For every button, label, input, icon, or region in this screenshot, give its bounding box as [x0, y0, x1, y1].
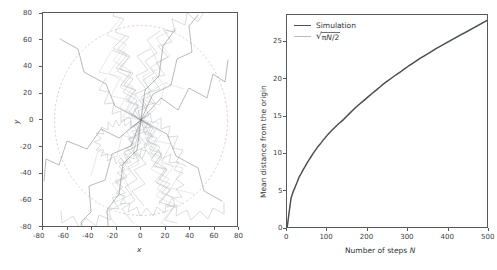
- right-y-ticklabel: 5: [278, 187, 282, 195]
- walk-outliers: [44, 15, 228, 227]
- left-x-ticklabel: 80: [234, 232, 243, 240]
- random-walk-canvas: [43, 13, 238, 227]
- legend: Simulation √πN/2: [290, 17, 361, 45]
- left-x-ticklabel: 60: [210, 232, 219, 240]
- legend-label-simulation: Simulation: [316, 20, 356, 31]
- right-x-tick: [448, 228, 449, 231]
- left-y-ticklabel: 40: [23, 62, 32, 70]
- right-x-tick: [286, 228, 287, 231]
- simulation-curve: [287, 19, 488, 228]
- right-x-tick: [326, 228, 327, 231]
- right-panel-xlabel: Number of steps N: [345, 246, 415, 255]
- left-y-ticklabel: 60: [23, 36, 32, 44]
- left-y-ticklabel: 80: [23, 9, 32, 17]
- right-x-ticklabel: 400: [441, 233, 454, 241]
- right-panel-mean-distance: Mean distance from the origin 25 20 15 1…: [248, 0, 497, 270]
- right-x-ticklabel: 0: [284, 233, 288, 241]
- right-y-ticklabel: 20: [273, 75, 282, 83]
- right-y-ticklabel: 10: [273, 149, 282, 157]
- left-panel-xlabel: x: [137, 245, 141, 254]
- right-x-tick: [407, 228, 408, 231]
- theory-curve: [287, 19, 488, 228]
- left-panel-ylabel: y: [12, 120, 21, 124]
- legend-item-simulation: Simulation: [294, 20, 356, 31]
- sqrt-formula: √πN/2: [316, 32, 340, 42]
- left-panel-random-walk: y 80 60 40 20 0 -20 -40 -60 -80: [0, 0, 248, 270]
- right-xlabel-text: Number of steps N: [345, 246, 415, 255]
- left-y-ticklabel: -40: [20, 169, 31, 177]
- right-panel-ylabel: Mean distance from the origin: [259, 85, 268, 198]
- figure-canvas: y 80 60 40 20 0 -20 -40 -60 -80: [0, 0, 497, 270]
- mean-distance-curves: [287, 15, 488, 228]
- legend-swatch-simulation: [294, 25, 311, 26]
- legend-item-theory: √πN/2: [294, 31, 356, 42]
- right-x-ticklabel: 500: [481, 233, 494, 241]
- left-x-tick: [116, 227, 117, 230]
- left-x-ticklabel: -60: [58, 232, 69, 240]
- over-two: /2: [332, 33, 339, 42]
- left-y-ticklabel: 20: [23, 89, 32, 97]
- left-y-ticklabel: -60: [20, 196, 31, 204]
- right-y-ticklabel: 0: [278, 224, 282, 232]
- right-y-ticklabel: 15: [273, 112, 282, 120]
- left-x-ticklabel: 0: [138, 232, 142, 240]
- legend-swatch-theory: [294, 36, 311, 37]
- left-x-tick: [91, 227, 92, 230]
- right-x-tick: [488, 228, 489, 231]
- left-x-tick: [189, 227, 190, 230]
- left-x-ticklabel: 40: [185, 232, 194, 240]
- left-x-tick: [238, 227, 239, 230]
- radicand: πN/2: [321, 32, 340, 42]
- left-y-ticklabel: -80: [20, 223, 31, 231]
- left-x-ticklabel: 20: [161, 232, 170, 240]
- right-plot-area: Simulation √πN/2: [286, 14, 488, 228]
- right-x-ticklabel: 100: [319, 233, 332, 241]
- right-x-ticklabel: 200: [360, 233, 373, 241]
- legend-label-theory: √πN/2: [316, 31, 340, 42]
- left-x-tick: [140, 227, 141, 230]
- left-y-ticklabel: 0: [29, 116, 33, 124]
- left-x-ticklabel: -80: [33, 232, 44, 240]
- left-plot-area: [42, 12, 238, 227]
- left-x-tick: [42, 227, 43, 230]
- left-x-ticklabel: -40: [82, 232, 93, 240]
- right-y-ticklabel: 25: [273, 37, 282, 45]
- right-x-ticklabel: 300: [400, 233, 413, 241]
- right-x-tick: [367, 228, 368, 231]
- left-x-ticklabel: -20: [107, 232, 118, 240]
- left-y-ticklabel: -20: [20, 143, 31, 151]
- left-x-tick: [214, 227, 215, 230]
- left-x-tick: [165, 227, 166, 230]
- left-x-tick: [67, 227, 68, 230]
